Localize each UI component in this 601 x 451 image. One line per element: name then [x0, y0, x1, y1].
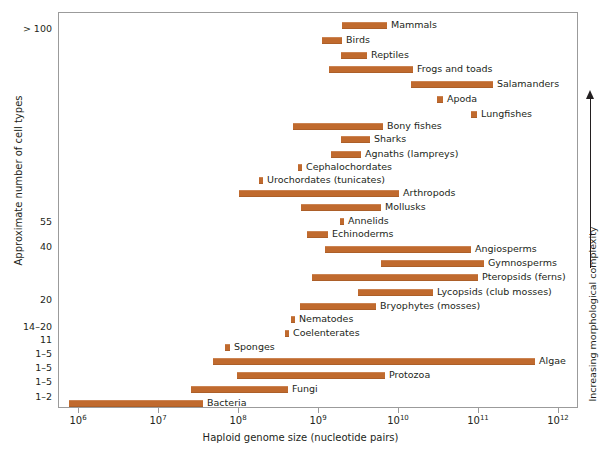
- bar: [300, 303, 376, 310]
- bar-row: Bacteria: [69, 400, 203, 407]
- x-tick-mantissa: 10: [69, 415, 82, 426]
- x-tick-exponent: 12: [560, 414, 569, 422]
- bar-label: Agnaths (lampreys): [365, 147, 458, 161]
- x-tick-label: 1010: [387, 415, 409, 426]
- bar-row: Gymnosperms: [381, 260, 484, 267]
- bar-label: Sponges: [234, 340, 275, 354]
- bar-label: Pteropsids (ferns): [482, 270, 566, 284]
- bar-row: Protozoa: [237, 372, 385, 379]
- bar-row: Annelids: [340, 218, 344, 225]
- bar: [237, 372, 385, 379]
- bar-row: Pteropsids (ferns): [312, 274, 478, 281]
- bar: [293, 123, 383, 130]
- x-tick-mantissa: 10: [309, 415, 322, 426]
- bar-label: Nematodes: [299, 312, 353, 326]
- y-tick-label: 40: [4, 242, 52, 252]
- bar-row: Frogs and toads: [329, 66, 413, 73]
- x-tick-label: 1012: [547, 415, 569, 426]
- x-tick-label: 1011: [467, 415, 489, 426]
- bar-label: Reptiles: [371, 48, 409, 62]
- bar-label: Birds: [346, 33, 370, 47]
- y-tick-label: 1–2: [4, 392, 52, 402]
- bar-row: Cephalochordates: [298, 164, 302, 171]
- bar-label: Apoda: [447, 92, 477, 106]
- bar-label: Lungfishes: [481, 107, 532, 121]
- bar-row: Lycopsids (club mosses): [358, 289, 433, 296]
- bar-row: Birds: [322, 37, 342, 44]
- bar-label: Mollusks: [385, 200, 426, 214]
- bar-row: Salamanders: [411, 81, 493, 88]
- bar-label: Annelids: [348, 214, 389, 228]
- bar-label: Angiosperms: [475, 242, 537, 256]
- x-tick-mark: [318, 408, 319, 413]
- x-tick-label: 107: [149, 415, 166, 426]
- bar-row: Mollusks: [301, 204, 381, 211]
- bar: [358, 289, 433, 296]
- bar: [259, 177, 263, 184]
- x-tick-label: 108: [229, 415, 246, 426]
- x-tick-mantissa: 10: [387, 415, 400, 426]
- bar: [341, 136, 370, 143]
- bar-label: Urochordates (tunicates): [267, 173, 385, 187]
- bar: [301, 204, 381, 211]
- bar: [307, 231, 328, 238]
- bar-label: Salamanders: [497, 77, 559, 91]
- x-tick-exponent: 9: [322, 414, 326, 422]
- x-tick-label: 109: [309, 415, 326, 426]
- x-axis-title: Haploid genome size (nucleotide pairs): [0, 432, 601, 443]
- bar: [471, 111, 477, 118]
- y-tick-label: 55: [4, 217, 52, 227]
- bar: [291, 316, 295, 323]
- bar: [225, 344, 230, 351]
- x-tick-mark: [558, 408, 559, 413]
- y-tick-label: 1–5: [4, 349, 52, 359]
- bar: [411, 81, 493, 88]
- y-axis-title: Approximate number of cell types: [13, 71, 24, 291]
- bar-row: Reptiles: [341, 52, 367, 59]
- complexity-axis: Increasing morphological complexity: [580, 90, 601, 380]
- bar-row: Coelenterates: [285, 330, 289, 337]
- y-tick-label: 20: [4, 295, 52, 305]
- bar-row: Nematodes: [291, 316, 295, 323]
- bar: [213, 358, 535, 365]
- complexity-axis-label: Increasing morphological complexity: [587, 242, 598, 402]
- bar-label: Protozoa: [389, 368, 430, 382]
- bar-row: Urochordates (tunicates): [259, 177, 263, 184]
- bar-label: Mammals: [391, 18, 437, 32]
- bar-row: Mammals: [342, 22, 387, 29]
- genome-size-chart: Approximate number of cell types > 10055…: [0, 0, 601, 451]
- plot-area: MammalsBirdsReptilesFrogs and toadsSalam…: [58, 12, 578, 408]
- bar: [437, 96, 443, 103]
- x-tick-mantissa: 10: [547, 415, 560, 426]
- y-tick-label: 1–5: [4, 363, 52, 373]
- bar-label: Bony fishes: [387, 119, 442, 133]
- y-tick-label: > 100: [4, 24, 52, 34]
- bar-row: Sharks: [341, 136, 370, 143]
- bar-label: Echinoderms: [332, 227, 394, 241]
- bar: [298, 164, 302, 171]
- x-tick-mark: [398, 408, 399, 413]
- x-tick-exponent: 6: [82, 414, 86, 422]
- bar: [239, 190, 399, 197]
- bar-row: Echinoderms: [307, 231, 328, 238]
- bar-row: Bony fishes: [293, 123, 383, 130]
- bar-label: Bacteria: [207, 396, 247, 410]
- bar: [191, 386, 288, 393]
- bar-label: Frogs and toads: [417, 62, 493, 76]
- bar: [329, 66, 413, 73]
- x-tick-mark: [238, 408, 239, 413]
- bar: [342, 22, 387, 29]
- x-tick-mark: [158, 408, 159, 413]
- x-tick-mantissa: 10: [149, 415, 162, 426]
- x-tick-mantissa: 10: [229, 415, 242, 426]
- bar: [381, 260, 484, 267]
- x-tick-exponent: 8: [242, 414, 246, 422]
- bar-row: Fungi: [191, 386, 288, 393]
- bar-label: Lycopsids (club mosses): [437, 285, 552, 299]
- bar: [312, 274, 478, 281]
- bar-row: Agnaths (lampreys): [331, 151, 361, 158]
- bar-label: Bryophytes (mosses): [380, 299, 480, 313]
- bar: [322, 37, 342, 44]
- bar-row: Apoda: [437, 96, 443, 103]
- x-tick-label: 106: [69, 415, 86, 426]
